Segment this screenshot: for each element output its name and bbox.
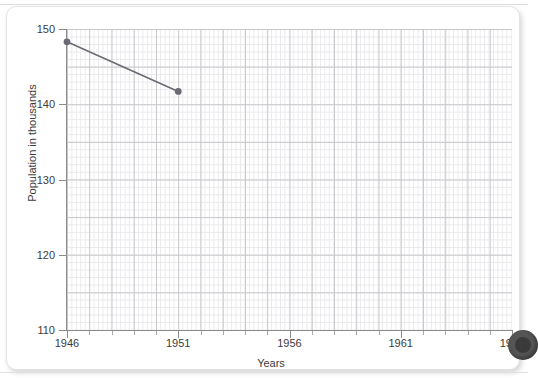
x-tick-mark-minor — [334, 331, 335, 335]
page-edge-circle-inner — [515, 337, 531, 353]
y-tick-mark — [59, 330, 66, 331]
x-tick-mark-minor — [112, 331, 113, 335]
y-tick-mark — [59, 29, 66, 30]
page-bottom-rule — [0, 372, 528, 373]
y-axis-line — [66, 29, 67, 331]
x-tick-mark-minor — [223, 331, 224, 335]
x-tick-mark-minor — [201, 331, 202, 335]
x-tick-mark-minor — [156, 331, 157, 335]
y-tick-mark — [59, 255, 66, 256]
x-tick-mark-minor — [490, 331, 491, 335]
x-tick-mark-minor — [468, 331, 469, 335]
x-axis-title: Years — [7, 357, 520, 369]
plot-area — [67, 29, 512, 330]
y-tick-mark — [59, 180, 66, 181]
y-axis-title: Population in thousands — [26, 58, 38, 228]
grid-major — [67, 29, 512, 330]
y-tick-mark — [59, 104, 66, 105]
x-tick-mark-minor — [89, 331, 90, 335]
chart-sheet: 110120130140150 19461951195619611966 Pop… — [6, 6, 520, 370]
y-tick-label: 120 — [17, 249, 55, 261]
x-tick-mark-minor — [423, 331, 424, 335]
x-tick-mark-minor — [312, 331, 313, 335]
y-tick-label: 150 — [17, 23, 55, 35]
x-tick-mark-minor — [379, 331, 380, 335]
x-tick-label: 1956 — [265, 337, 315, 349]
x-tick-mark-minor — [267, 331, 268, 335]
x-tick-label: 1961 — [376, 337, 426, 349]
x-tick-mark-minor — [245, 331, 246, 335]
page-top-rule — [0, 4, 528, 5]
x-tick-label: 1951 — [153, 337, 203, 349]
x-tick-mark-minor — [356, 331, 357, 335]
x-tick-mark-minor — [445, 331, 446, 335]
x-tick-mark-minor — [134, 331, 135, 335]
y-tick-label: 110 — [17, 324, 55, 336]
x-tick-label: 1946 — [42, 337, 92, 349]
